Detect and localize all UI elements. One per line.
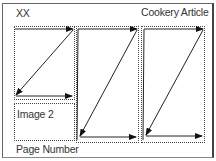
column-3-text-area (141, 26, 205, 143)
header-left-text: XX (16, 7, 30, 19)
page-number-footer: Page Number (16, 143, 79, 155)
image-2-label: Image 2 (17, 108, 54, 120)
column-1-text-area (14, 26, 75, 100)
column-2-text-area (76, 26, 139, 143)
header-right-title: Cookery Article (141, 6, 209, 18)
image-2-box: Image 2 (14, 103, 75, 141)
